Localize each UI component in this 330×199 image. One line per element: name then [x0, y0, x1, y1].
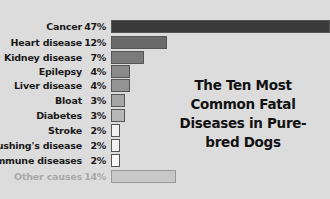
bar	[111, 170, 176, 183]
value-label: 4%	[82, 66, 106, 77]
bar	[111, 124, 120, 137]
category-label: Immune diseases	[0, 155, 82, 166]
category-label: Cancer	[0, 21, 82, 32]
value-label: 47%	[82, 21, 106, 32]
chart-row: Heart disease12%	[0, 35, 320, 50]
bar	[111, 109, 125, 122]
bar	[111, 94, 125, 107]
category-label: Cushing's disease	[0, 140, 82, 151]
bar	[111, 51, 144, 64]
bar	[111, 65, 130, 78]
category-label: Diabetes	[0, 110, 82, 121]
chart-title: The Ten Most Common Fatal Diseases in Pu…	[172, 76, 314, 152]
value-label: 7%	[82, 52, 106, 63]
value-label: 14%	[82, 171, 106, 182]
category-label: Epilepsy	[0, 66, 82, 77]
category-label: Bloat	[0, 95, 82, 106]
category-label: Heart disease	[0, 37, 82, 48]
bar	[111, 154, 120, 167]
bar	[111, 20, 330, 33]
category-label: Kidney disease	[0, 52, 82, 63]
chart-row: Kidney disease7%	[0, 50, 320, 65]
value-label: 2%	[82, 140, 106, 151]
category-label: Stroke	[0, 125, 82, 136]
bar	[111, 139, 120, 152]
bar	[111, 79, 130, 92]
category-label: Liver disease	[0, 80, 82, 91]
value-label: 2%	[82, 125, 106, 136]
chart-row: Other causes14%	[0, 169, 320, 184]
category-label: Other causes	[0, 171, 82, 182]
bar	[111, 36, 167, 49]
value-label: 12%	[82, 37, 106, 48]
chart-row: Immune diseases2%	[0, 153, 320, 168]
value-label: 3%	[82, 95, 106, 106]
value-label: 2%	[82, 155, 106, 166]
value-label: 4%	[82, 80, 106, 91]
value-label: 3%	[82, 110, 106, 121]
chart-row: Cancer47%	[0, 19, 320, 34]
